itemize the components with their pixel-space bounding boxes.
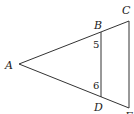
point-label-b: B [93, 19, 102, 32]
angle-label-5: 5 [93, 39, 99, 50]
point-label-d: D [93, 101, 103, 114]
angle-label-6: 6 [93, 80, 99, 91]
geometry-diagram: A B C D E 5 6 [0, 0, 134, 114]
point-label-e: E [124, 110, 133, 114]
point-label-a: A [4, 59, 13, 72]
segment-ac [19, 21, 129, 64]
segment-ae [19, 64, 129, 108]
point-label-c: C [122, 4, 131, 17]
